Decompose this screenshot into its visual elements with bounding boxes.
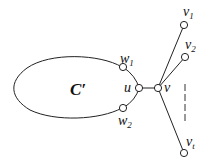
edge-v-v1 xyxy=(158,25,184,88)
graph-diagram: C′ w1 u w2 v v1 v2 vt xyxy=(0,0,210,168)
cycle-label: C′ xyxy=(70,80,86,99)
label-v: v xyxy=(164,80,171,95)
node-vt xyxy=(180,149,187,156)
node-v1 xyxy=(180,21,187,28)
diagram-svg: C′ w1 u w2 v v1 v2 vt xyxy=(0,0,210,168)
label-v2: v2 xyxy=(185,37,196,54)
label-vt: vt xyxy=(186,134,195,151)
node-w2 xyxy=(119,104,126,111)
edge-v-v2 xyxy=(158,57,185,88)
label-w2: w2 xyxy=(118,113,132,130)
label-v1: v1 xyxy=(183,4,194,21)
label-w1: w1 xyxy=(120,51,134,68)
label-u: u xyxy=(124,80,131,95)
node-v2 xyxy=(181,53,188,60)
cycle-c-prime xyxy=(14,57,122,118)
edge-v-vt xyxy=(158,88,184,153)
node-v xyxy=(154,84,161,91)
node-u xyxy=(135,84,142,91)
